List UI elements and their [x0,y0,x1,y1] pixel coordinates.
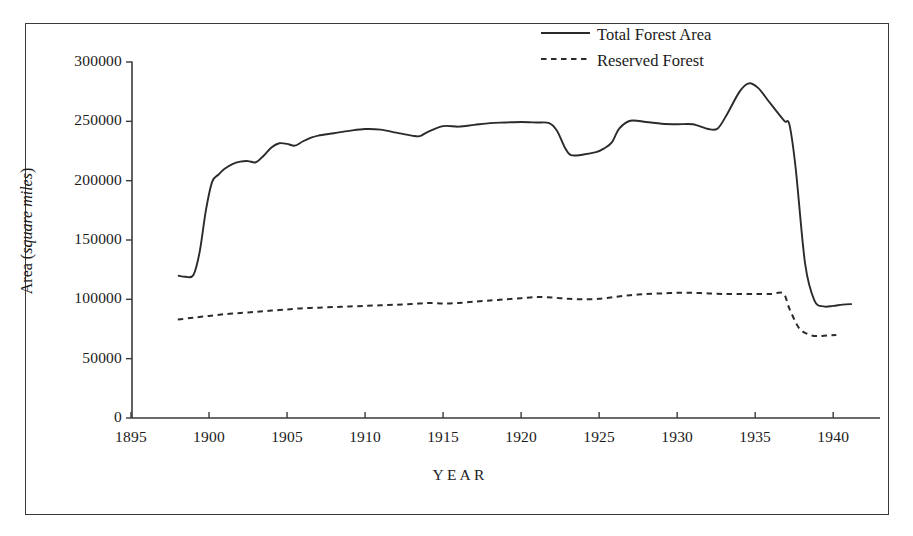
y-axis-label-italic: square miles [18,173,35,254]
chart-figure: 300000 250000 200000 150000 100000 50000… [0,0,913,536]
xtick-label: 1920 [481,428,561,446]
legend-entry-label-reserved-forest: Reserved Forest [597,51,704,71]
y-axis-label-plain: Area ( [18,254,35,294]
xtick-label: 1910 [325,428,405,446]
x-axis-label: YEAR [360,466,560,484]
ytick-label: 0 [0,408,122,426]
axes-group [126,62,880,419]
data-series-group [178,83,852,336]
xtick-label: 1905 [247,428,327,446]
xtick-label: 1900 [169,428,249,446]
y-axis-label-close: ) [18,168,35,173]
legend-entry-label-total-forest-area: Total Forest Area [597,25,711,45]
ytick-label: 300000 [0,52,122,70]
chart-plot-area [0,0,913,536]
xtick-label: 1935 [715,428,795,446]
xtick-label: 1940 [793,428,873,446]
xtick-label: 1925 [559,428,639,446]
ytick-label: 50000 [0,349,122,367]
y-axis-label: Area (square miles) [18,141,36,321]
xtick-label: 1930 [637,428,717,446]
series-line-reserved-forest [178,292,837,336]
series-line-total-forest-area [178,83,852,306]
xtick-label: 1895 [91,428,171,446]
xtick-label: 1915 [403,428,483,446]
legend-line-samples [541,33,590,59]
ytick-label: 250000 [0,111,122,129]
